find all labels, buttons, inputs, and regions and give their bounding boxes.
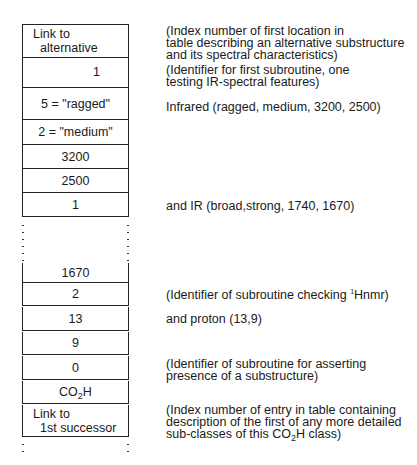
annotation-link-alternative: (Index number of first location in table… [166,25,404,61]
dotted-continuation-right-bottom [127,441,129,455]
cell-value: 2500 [62,174,90,188]
dotted-continuation-left [22,222,24,264]
cell-3200: 3200 [22,145,129,169]
cell-value: 2 = "medium" [38,125,113,139]
cell-value: 5 = "ragged" [41,97,110,111]
cell-link-to-successor: Link to 1st successor [22,405,129,437]
cell-label: Link to [23,27,128,41]
cell-link-to-alternative: Link to alternative [22,24,129,58]
cell-value: CO2H [59,385,92,399]
cell-ragged: 5 = "ragged" [22,88,129,120]
dotted-continuation-right [127,222,129,264]
cell-hnmr-subroutine: 2 [22,283,129,306]
cell-ir-subroutine: 1 [22,193,129,217]
cell-13: 13 [22,307,129,331]
cell-value: 9 [72,336,79,350]
cell-9: 9 [22,332,129,355]
cell-label: Link to [23,407,128,421]
cell-value: 0 [72,361,79,375]
cell-medium: 2 = "medium" [22,120,129,145]
cell-1670: 1670 [22,263,129,283]
cell-value: 2 [72,287,79,301]
annotation-successor: (Index number of entry in table containi… [166,404,402,440]
cell-co2h: CO2H [22,381,129,404]
cell-label: 1st successor [23,421,128,435]
annotation-and-ir: and IR (broad,strong, 1740, 1670) [166,200,354,212]
cell-label: alternative [23,41,128,55]
dotted-continuation-left-bottom [22,441,24,455]
cell-subroutine-id: 1 [22,56,129,88]
cell-value: 1670 [62,266,90,280]
annotation-infrared: Infrared (ragged, medium, 3200, 2500) [166,101,381,113]
annotation-first-subroutine: (Identifier for first subroutine, one te… [166,64,349,88]
annotation-hnmr: (Identifier of subroutine checking 1Hnmr… [166,289,389,301]
annotation-asserting: (Identifier of subroutine for asserting … [166,358,366,382]
cell-value: 3200 [62,150,90,164]
cell-2500: 2500 [22,169,129,193]
cell-value: 13 [69,312,83,326]
annotation-proton: and proton (13,9) [166,313,262,325]
cell-assert-subroutine: 0 [22,356,129,380]
cell-value: 1 [72,198,79,212]
cell-value: 1 [93,65,100,79]
